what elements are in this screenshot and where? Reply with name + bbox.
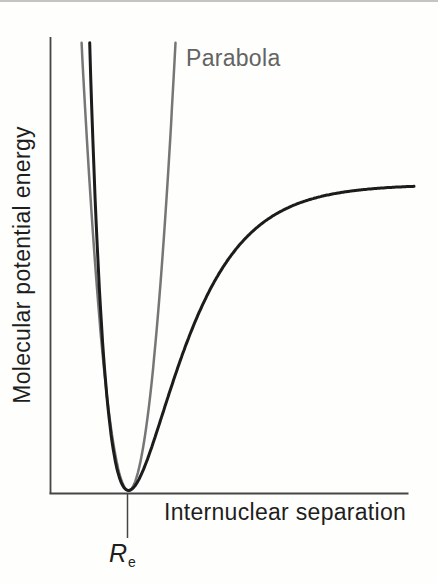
figure-morse-vs-parabola: Molecular potential energy Internuclear … (0, 0, 438, 583)
re-symbol: R (109, 539, 127, 567)
x-axis-label: Internuclear separation (164, 501, 406, 524)
y-axis-label: Molecular potential energy (11, 126, 34, 404)
plot-canvas (0, 0, 438, 583)
parabola-curve (82, 43, 176, 491)
re-subscript: e (128, 554, 136, 570)
parabola-curve-label: Parabola (186, 47, 280, 70)
morse-potential-curve (90, 43, 414, 491)
re-tick-label: Re (109, 541, 136, 569)
